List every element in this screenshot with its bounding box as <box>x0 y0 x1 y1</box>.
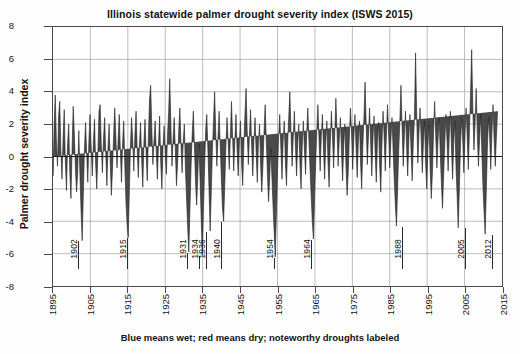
y-tick-mark <box>44 59 52 60</box>
x-tick-mark <box>353 287 354 293</box>
x-tick-label: 1925 <box>160 294 171 315</box>
x-tick-label: 1935 <box>197 294 208 315</box>
annotation-label-1936: 1936 <box>197 239 207 259</box>
x-tick-mark <box>90 287 91 293</box>
y-tick-mark <box>44 189 52 190</box>
x-tick-label: 1915 <box>122 294 133 315</box>
y-tick-label: 6 <box>0 53 14 64</box>
x-tick-label: 2015 <box>498 294 509 315</box>
y-tick-mark <box>44 26 52 27</box>
y-tick-label: 0 <box>0 151 14 162</box>
y-tick-label: -8 <box>0 281 14 292</box>
x-tick-mark <box>278 287 279 293</box>
x-tick-mark <box>165 287 166 293</box>
y-tick-label: 2 <box>0 118 14 129</box>
y-tick-mark <box>44 124 52 125</box>
annotation-label-2005: 2005 <box>456 239 466 259</box>
x-tick-label: 1905 <box>85 294 96 315</box>
annotation-label-1915: 1915 <box>118 239 128 259</box>
y-tick-label: -6 <box>0 248 14 259</box>
annotation-leader-line <box>274 258 275 269</box>
y-tick-mark <box>44 254 52 255</box>
y-tick-mark <box>44 91 52 92</box>
annotation-label-1988: 1988 <box>393 239 403 259</box>
x-tick-label: 1895 <box>47 294 58 315</box>
chart-title: Illinois statewide palmer drought severi… <box>0 8 520 20</box>
x-tick-mark <box>428 287 429 293</box>
x-tick-mark <box>202 287 203 293</box>
y-tick-label: 4 <box>0 85 14 96</box>
y-tick-label: 8 <box>0 20 14 31</box>
chart-figure: Illinois statewide palmer drought severi… <box>0 0 520 354</box>
x-tick-mark <box>52 287 53 293</box>
y-axis-title: Palmer drought severity index <box>18 44 30 264</box>
annotation-label-1931: 1931 <box>178 239 188 259</box>
x-tick-mark <box>315 287 316 293</box>
x-tick-label: 2005 <box>460 294 471 315</box>
annotation-label-2012: 2012 <box>483 239 493 259</box>
annotation-label-1954: 1954 <box>265 239 275 259</box>
x-tick-label: 1955 <box>273 294 284 315</box>
x-tick-mark <box>503 287 504 293</box>
annotation-label-1902: 1902 <box>69 239 79 259</box>
x-tick-mark <box>390 287 391 293</box>
x-tick-mark <box>127 287 128 293</box>
y-tick-mark <box>44 222 52 223</box>
x-tick-label: 1985 <box>385 294 396 315</box>
y-tick-mark <box>44 157 52 158</box>
x-tick-label: 1945 <box>235 294 246 315</box>
y-tick-mark <box>44 287 52 288</box>
chart-caption: Blue means wet; red means dry; noteworth… <box>0 332 520 343</box>
x-tick-mark <box>240 287 241 293</box>
y-tick-label: -4 <box>0 216 14 227</box>
y-tick-label: -2 <box>0 183 14 194</box>
annotation-label-1964: 1964 <box>302 239 312 259</box>
x-tick-label: 1965 <box>310 294 321 315</box>
x-tick-label: 1975 <box>348 294 359 315</box>
x-tick-label: 1995 <box>423 294 434 315</box>
annotation-label-1940: 1940 <box>212 239 222 259</box>
x-tick-mark <box>465 287 466 293</box>
